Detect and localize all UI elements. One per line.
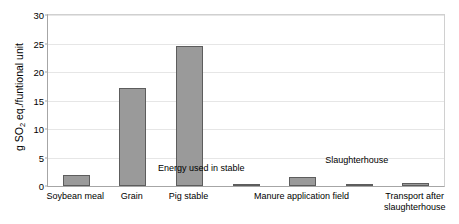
bar [63, 175, 90, 186]
gridline [48, 101, 444, 102]
x-axis-category-label: Pig stable [169, 191, 209, 202]
y-tick-label: 30 [33, 10, 44, 21]
bar [233, 184, 260, 186]
plot-area: 051015202530Energy used in stableSlaught… [47, 14, 445, 187]
gridline [48, 44, 444, 45]
y-tick-label: 15 [33, 95, 44, 106]
y-axis-title: g SO2 eq./funtional unit [11, 17, 27, 177]
y-tick-label: 5 [39, 152, 44, 163]
y-axis-title-prefix: g SO [13, 127, 25, 151]
gridline [48, 72, 444, 73]
y-tick-mark [45, 100, 48, 101]
y-tick-label: 20 [33, 67, 44, 78]
y-tick-label: 0 [39, 181, 44, 192]
bar [289, 177, 316, 186]
sulphur-dioxide-bar-chart: g SO2 eq./funtional unit 051015202530Ene… [0, 0, 459, 224]
y-tick-label: 10 [33, 124, 44, 135]
y-tick-mark [45, 129, 48, 130]
y-tick-mark [45, 186, 48, 187]
bar-annotation: Energy used in stable [158, 163, 245, 173]
y-tick-mark [45, 72, 48, 73]
x-axis-category-label: Soybean meal [47, 191, 105, 202]
x-axis-category-label: Transport after slaughterhouse [384, 191, 446, 212]
x-axis-category-label: Grain [121, 191, 143, 202]
bar [346, 184, 373, 186]
y-tick-mark [45, 43, 48, 44]
x-axis-category-label: Manure application field [254, 191, 349, 202]
gridline [48, 15, 444, 16]
gridline [48, 129, 444, 130]
bar [119, 88, 146, 186]
bar-annotation: Slaughterhouse [325, 155, 388, 165]
y-tick-mark [45, 15, 48, 16]
y-tick-label: 25 [33, 38, 44, 49]
y-tick-mark [45, 157, 48, 158]
y-axis-title-suffix: eq./funtional unit [13, 43, 25, 123]
bar [402, 183, 429, 186]
y-axis-title-subscript: 2 [18, 123, 27, 127]
